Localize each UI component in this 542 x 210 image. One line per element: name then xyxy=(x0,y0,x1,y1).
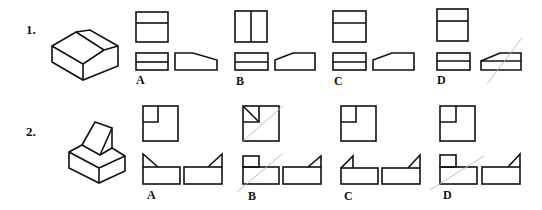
problem-2-option-c[interactable] xyxy=(341,106,420,184)
problem-1-option-c[interactable] xyxy=(333,11,414,70)
problem-2-option-a-label: A xyxy=(147,188,156,202)
problem-1-option-a-label: A xyxy=(136,73,145,87)
problem-2-option-a[interactable] xyxy=(143,106,222,184)
problem-1-option-b-label: B xyxy=(236,74,244,88)
problem-2-option-d-label: D xyxy=(443,188,452,202)
problem-1-option-d[interactable] xyxy=(437,9,522,84)
problem-1-option-a[interactable] xyxy=(136,12,217,70)
construction-line xyxy=(430,156,484,190)
problem-1-option-c-label: C xyxy=(334,74,343,88)
problem-2: 2. A xyxy=(26,106,520,203)
problem-2-option-d[interactable] xyxy=(430,106,520,190)
problem-2-option-b-label: B xyxy=(248,189,256,203)
problem-1-number: 1. xyxy=(26,22,36,37)
problem-2-option-c-label: C xyxy=(344,189,353,203)
problem-1-option-b[interactable] xyxy=(235,11,315,70)
orthographic-projection-quiz: 1. A B xyxy=(0,0,542,210)
problem-1: 1. A B xyxy=(26,9,522,88)
problem-2-number: 2. xyxy=(26,124,36,139)
problem-1-option-d-label: D xyxy=(437,73,446,87)
problem-2-option-b[interactable] xyxy=(237,106,321,192)
problem-1-isometric xyxy=(52,30,118,80)
problem-2-isometric xyxy=(69,122,125,183)
